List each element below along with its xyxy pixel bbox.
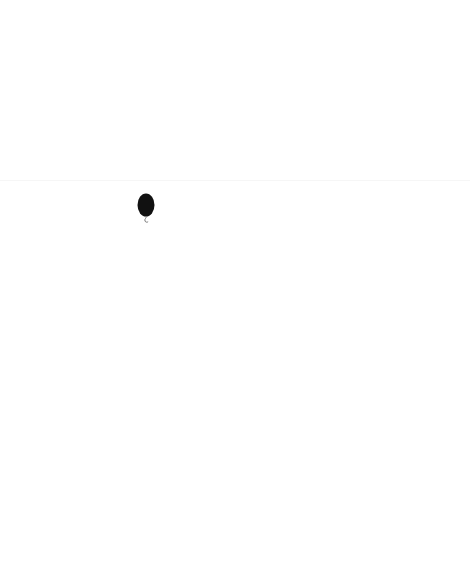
balloon-shape (136, 193, 156, 225)
blank-canvas (0, 0, 470, 578)
balloon-body (138, 194, 155, 217)
faint-divider (0, 180, 470, 181)
balloon-string (145, 216, 148, 222)
balloon-icon (136, 193, 156, 225)
